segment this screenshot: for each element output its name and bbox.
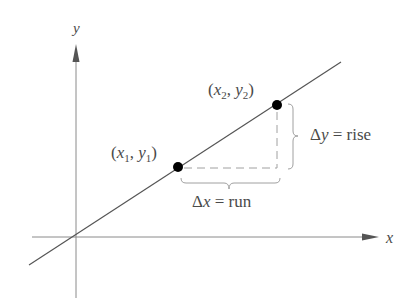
x-axis-label: x	[385, 229, 393, 246]
point-1-label: (x1, y1)	[111, 143, 157, 164]
run-brace	[181, 178, 280, 189]
run-label: Δx = run	[192, 192, 252, 211]
y-axis-label: y	[71, 20, 80, 36]
point-2-marker	[272, 100, 282, 110]
x-axis-arrow-icon	[362, 234, 379, 241]
point-1-marker	[173, 162, 183, 172]
slope-diagram: y x (x1, y1) (x2, y2) Δy = rise Δx = run	[0, 0, 417, 302]
rise-brace	[288, 104, 298, 169]
point-2-label: (x2, y2)	[208, 80, 254, 101]
y-axis-arrow-icon	[73, 44, 80, 62]
rise-label: Δy = rise	[310, 125, 371, 144]
